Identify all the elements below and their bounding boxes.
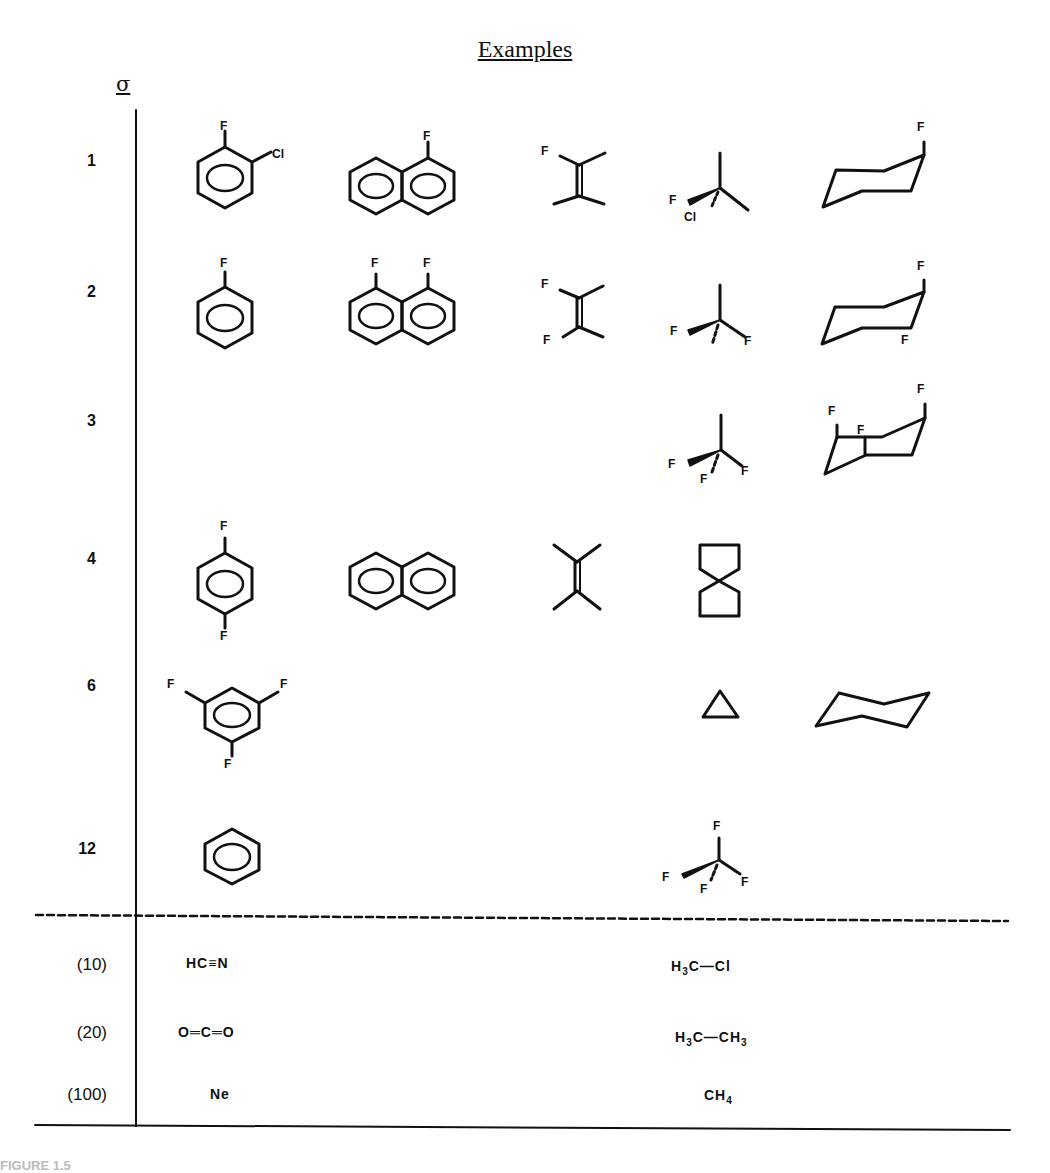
svg-text:F: F xyxy=(741,875,748,889)
svg-text:Cl: Cl xyxy=(684,210,696,224)
structure-difluoroalkene: F F xyxy=(541,277,603,347)
figure-caption-fragment: FIGURE 1.5 xyxy=(0,1158,71,1173)
svg-text:F: F xyxy=(669,193,676,207)
structure-fluoro-trisubstituted-alkene: F xyxy=(541,144,605,204)
svg-text:F: F xyxy=(713,819,720,833)
svg-text:F: F xyxy=(857,423,864,437)
svg-text:F: F xyxy=(224,757,231,771)
structure-fluorobenzene: F xyxy=(198,256,252,348)
structure-tetrafluoromethane: F F F F xyxy=(662,819,748,896)
svg-text:F: F xyxy=(167,677,174,691)
structure-1-8-difluoronaphthalene: F F xyxy=(350,256,454,344)
svg-text:F: F xyxy=(371,256,378,270)
svg-text:F: F xyxy=(423,129,430,143)
svg-text:F: F xyxy=(662,870,669,884)
svg-text:F: F xyxy=(917,120,924,134)
svg-text:F: F xyxy=(423,256,430,270)
structure-trifluoro-bicyclic: F F F xyxy=(825,382,925,474)
structure-axial-fluorocyclohexane: F xyxy=(823,120,924,207)
svg-text:Cl: Cl xyxy=(272,147,284,161)
svg-text:F: F xyxy=(700,882,707,896)
svg-text:F: F xyxy=(917,382,924,396)
svg-text:F: F xyxy=(220,519,227,533)
svg-text:F: F xyxy=(828,404,835,418)
structure-chlorofluoro-carbon: F Cl xyxy=(669,153,748,224)
structure-benzene xyxy=(205,829,259,884)
svg-text:F: F xyxy=(670,324,677,338)
svg-text:F: F xyxy=(280,677,287,691)
svg-text:F: F xyxy=(220,256,227,270)
structure-cyclohexane-chair xyxy=(816,693,929,727)
structure-difluoro-carbon: F F xyxy=(670,285,751,348)
svg-text:F: F xyxy=(901,333,908,347)
structure-tetramethylethylene xyxy=(554,545,600,609)
structure-trifluoromethyl: F F F xyxy=(668,415,748,486)
structure-difluorocyclohexane: F F xyxy=(822,259,924,347)
svg-text:F: F xyxy=(541,277,548,291)
svg-text:F: F xyxy=(541,144,548,158)
structure-1-fluoronaphthalene: F xyxy=(350,129,454,214)
svg-text:F: F xyxy=(543,333,550,347)
structure-naphthalene xyxy=(350,553,454,609)
structure-spiro-bicycle xyxy=(700,545,739,616)
structure-2-chloro-fluorobenzene: F Cl xyxy=(198,119,284,208)
bottom-rule xyxy=(35,1125,1010,1130)
svg-text:F: F xyxy=(744,334,751,348)
svg-text:F: F xyxy=(668,457,675,471)
svg-text:F: F xyxy=(741,464,748,478)
structure-cyclopropane xyxy=(703,691,738,717)
structure-1-3-5-trifluorobenzene: F F F xyxy=(167,677,287,771)
svg-text:F: F xyxy=(917,259,924,273)
svg-text:F: F xyxy=(700,472,707,486)
svg-text:F: F xyxy=(220,629,227,643)
dashed-separator xyxy=(36,915,1008,921)
structure-1-4-difluorobenzene: F F xyxy=(198,519,252,643)
svg-text:F: F xyxy=(220,119,227,133)
